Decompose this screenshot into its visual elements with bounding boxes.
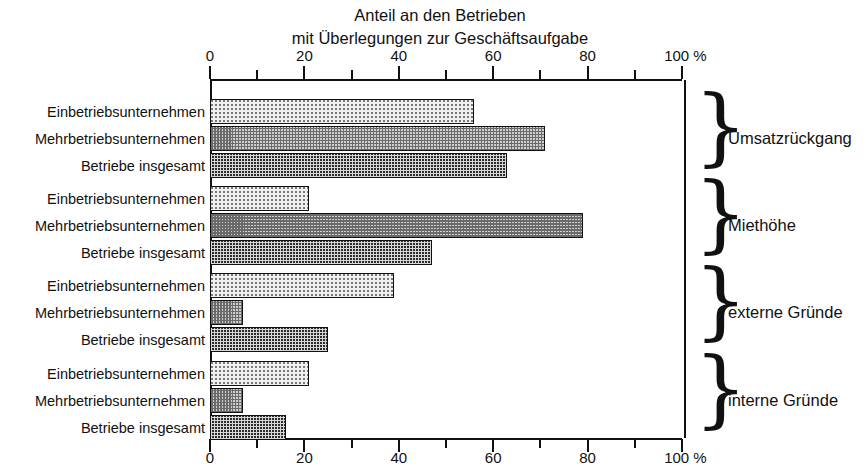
x-tick-label-bottom-80: 80 <box>579 449 596 466</box>
category-label: Betriebe insgesamt <box>0 154 205 178</box>
category-label: Betriebe insgesamt <box>0 241 205 265</box>
bar-row <box>210 273 682 298</box>
x-tick-label-bottom-100: 100 % <box>664 449 707 466</box>
bar-3-2[interactable] <box>210 300 243 325</box>
x-tick-top-20 <box>303 66 305 79</box>
x-tick-label-top-60: 60 <box>485 47 502 64</box>
x-tick-top-70 <box>539 70 541 79</box>
category-label: Mehrbetriebsunternehmen <box>0 301 205 325</box>
bar-2-2[interactable] <box>210 213 583 238</box>
chart-title-line-2: mit Überlegungen zur Geschäftsaufgabe <box>150 27 730 50</box>
category-label: Betriebe insgesamt <box>0 416 205 440</box>
x-tick-top-40 <box>398 66 400 79</box>
x-tick-label-bottom-60: 60 <box>485 449 502 466</box>
chart-title-line-1: Anteil an den Betrieben <box>150 4 730 27</box>
bar-row <box>210 327 682 352</box>
bar-2-1[interactable] <box>210 186 309 211</box>
bar-3-1[interactable] <box>210 273 394 298</box>
category-label: Einbetriebsunternehmen <box>0 187 205 211</box>
category-label: Mehrbetriebsunternehmen <box>0 214 205 238</box>
bar-row <box>210 300 682 325</box>
x-tick-top-50 <box>445 70 447 79</box>
category-label: Mehrbetriebsunternehmen <box>0 127 205 151</box>
x-tick-top-90 <box>634 70 636 79</box>
chart-title: Anteil an den Betrieben mit Überlegungen… <box>150 4 730 50</box>
bar-row <box>210 126 682 151</box>
x-tick-label-top-100: 100 % <box>664 47 707 64</box>
bar-row <box>210 153 682 178</box>
x-tick-bottom-50 <box>445 439 447 448</box>
bar-1-2[interactable] <box>210 126 545 151</box>
category-label: Mehrbetriebsunternehmen <box>0 389 205 413</box>
bar-row <box>210 415 682 440</box>
x-tick-bottom-90 <box>634 439 636 448</box>
bar-row <box>210 361 682 386</box>
x-tick-top-100 <box>681 66 683 79</box>
group-label-2: Miethöhe <box>728 216 796 235</box>
group-label-3: externe Gründe <box>728 303 843 322</box>
bar-1-1[interactable] <box>210 99 474 124</box>
category-label: Einbetriebsunternehmen <box>0 362 205 386</box>
x-tick-label-bottom-40: 40 <box>390 449 407 466</box>
x-tick-top-0 <box>209 66 211 79</box>
bar-row <box>210 99 682 124</box>
x-tick-label-bottom-20: 20 <box>296 449 313 466</box>
bar-4-2[interactable] <box>210 388 243 413</box>
brace-icon: } <box>694 258 747 342</box>
group-label-1: Umsatzrückgang <box>728 129 852 148</box>
chart-root: Anteil an den Betrieben mit Überlegungen… <box>0 0 868 475</box>
x-tick-top-10 <box>256 70 258 79</box>
x-tick-bottom-70 <box>539 439 541 448</box>
x-tick-label-bottom-0: 0 <box>206 449 214 466</box>
bar-4-3[interactable] <box>210 415 286 440</box>
x-tick-bottom-30 <box>351 439 353 448</box>
x-tick-label-top-40: 40 <box>390 47 407 64</box>
bar-1-3[interactable] <box>210 153 507 178</box>
x-tick-label-top-80: 80 <box>579 47 596 64</box>
bar-4-1[interactable] <box>210 361 309 386</box>
category-label: Einbetriebsunternehmen <box>0 274 205 298</box>
category-label: Betriebe insgesamt <box>0 328 205 352</box>
brace-icon: } <box>694 171 747 255</box>
brace-icon: } <box>694 84 747 168</box>
x-tick-top-30 <box>351 70 353 79</box>
bar-row <box>210 186 682 211</box>
x-tick-bottom-10 <box>256 439 258 448</box>
bar-row <box>210 388 682 413</box>
bar-3-3[interactable] <box>210 327 328 352</box>
category-label: Einbetriebsunternehmen <box>0 100 205 124</box>
bar-row <box>210 213 682 238</box>
x-tick-label-top-20: 20 <box>296 47 313 64</box>
x-tick-label-top-0: 0 <box>206 47 214 64</box>
group-label-4: interne Gründe <box>728 391 838 410</box>
x-tick-top-60 <box>492 66 494 79</box>
bar-row <box>210 240 682 265</box>
brace-icon: } <box>694 346 747 430</box>
x-tick-top-80 <box>587 66 589 79</box>
x-axis-top <box>210 79 682 81</box>
bar-2-3[interactable] <box>210 240 432 265</box>
